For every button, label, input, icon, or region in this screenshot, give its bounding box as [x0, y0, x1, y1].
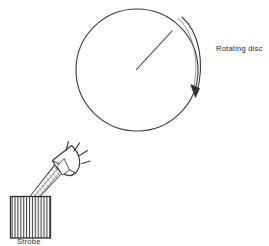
- label-rotating-disc: Rotating disc: [216, 44, 263, 53]
- rotation-arc: [182, 17, 201, 92]
- label-strobe: Strobe: [17, 237, 41, 246]
- diagram-canvas: [0, 0, 269, 246]
- strobe-body-fill: [11, 197, 51, 239]
- strobe-unit-group: [11, 142, 91, 239]
- rotation-arc-inner: [178, 18, 196, 90]
- light-ray-4: [82, 161, 90, 164]
- rotating-disc-outline: [76, 9, 198, 131]
- rotating-disc-group: [76, 9, 198, 131]
- strobe-body: [11, 197, 51, 239]
- light-ray-2: [74, 143, 80, 151]
- light-ray-3: [80, 151, 88, 156]
- figure-strobe-rotating-disc: Rotating disc Strobe: [0, 0, 269, 246]
- disc-radius-mark: [137, 31, 173, 70]
